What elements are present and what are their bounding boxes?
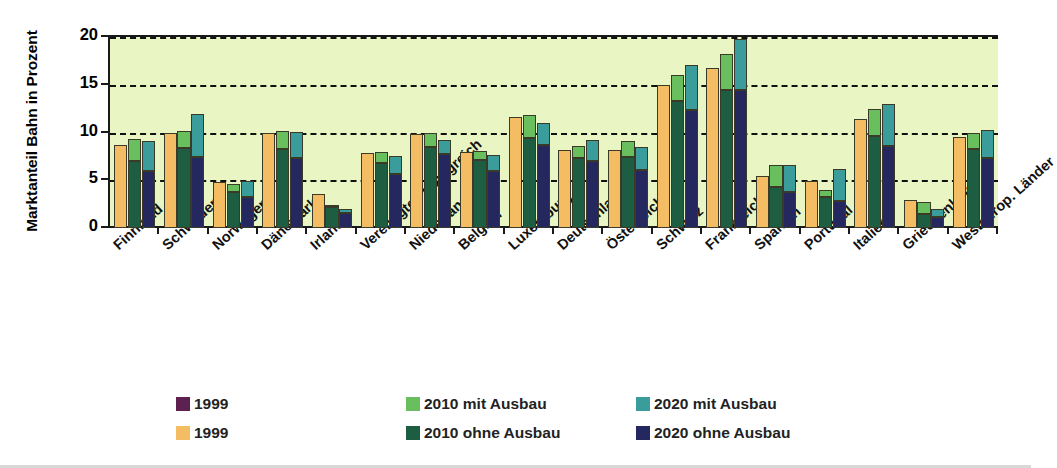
- legend-label: 1999: [194, 425, 228, 440]
- y-tick-label: 15: [56, 73, 98, 92]
- x-tick-mark: [848, 226, 850, 234]
- x-tick-mark: [404, 226, 406, 234]
- bar-2020-mit-ausbau: [241, 181, 254, 196]
- legend-item: 2010 mit Ausbau: [406, 396, 547, 411]
- bar-2020-ohne-ausbau: [537, 145, 550, 228]
- bar-2010-mit-ausbau: [128, 139, 141, 161]
- bar-2010-ohne-ausbau: [967, 149, 980, 228]
- bar-2020-ohne-ausbau: [981, 158, 994, 228]
- bar-2020-mit-ausbau: [734, 39, 747, 91]
- legend-item: 1999: [176, 425, 228, 440]
- x-tick-mark: [651, 226, 653, 234]
- x-tick-mark: [947, 226, 949, 234]
- bar-2010-ohne-ausbau: [868, 136, 881, 228]
- bar-2010-ohne-ausbau: [177, 148, 190, 228]
- bar-1999: [558, 150, 571, 228]
- bar-2010-ohne-ausbau: [375, 163, 388, 228]
- bar-2020-ohne-ausbau: [635, 170, 648, 228]
- bar-1999: [312, 194, 325, 228]
- x-tick-mark: [700, 226, 702, 234]
- legend-swatch: [406, 426, 420, 440]
- bar-2020-mit-ausbau: [635, 147, 648, 170]
- bar-1999: [361, 153, 374, 228]
- legend-item: 2020 mit Ausbau: [636, 396, 777, 411]
- bar-1999: [114, 145, 127, 228]
- bar-2010-mit-ausbau: [424, 133, 437, 147]
- legend-swatch: [636, 397, 650, 411]
- bar-2010-ohne-ausbau: [621, 157, 634, 228]
- bar-2010-ohne-ausbau: [671, 101, 684, 228]
- y-tick-mark: [101, 35, 108, 37]
- bar-2020-mit-ausbau: [191, 114, 204, 157]
- legend-swatch: [176, 397, 190, 411]
- bar-2010-mit-ausbau: [227, 184, 240, 192]
- bar-2020-ohne-ausbau: [389, 174, 402, 228]
- bar-2010-ohne-ausbau: [917, 214, 930, 228]
- bar-2020-ohne-ausbau: [142, 171, 155, 228]
- bar-2020-mit-ausbau: [537, 123, 550, 145]
- bar-2010-mit-ausbau: [967, 133, 980, 149]
- bar-2010-mit-ausbau: [523, 115, 536, 138]
- legend-row: 19992010 ohne Ausbau2020 ohne Ausbau: [176, 425, 976, 454]
- bar-1999: [262, 133, 275, 229]
- bar-2010-mit-ausbau: [720, 54, 733, 90]
- bar-2010-mit-ausbau: [375, 152, 388, 163]
- bar-2020-ohne-ausbau: [833, 201, 846, 228]
- bar-2020-mit-ausbau: [685, 65, 698, 110]
- bar-1999: [460, 152, 473, 228]
- x-tick-mark: [552, 226, 554, 234]
- y-tick-mark: [101, 226, 108, 228]
- x-tick-mark: [157, 226, 159, 234]
- bar-2020-mit-ausbau: [487, 155, 500, 170]
- bar-2010-mit-ausbau: [177, 131, 190, 148]
- bar-1999: [657, 85, 670, 228]
- y-tick-mark: [101, 178, 108, 180]
- bar-1999: [213, 182, 226, 228]
- y-axis-title: Marktanteil Bahn in Prozent: [23, 11, 41, 251]
- bar-2020-ohne-ausbau: [783, 192, 796, 228]
- bar-2020-ohne-ausbau: [685, 110, 698, 228]
- x-tick-mark: [355, 226, 357, 234]
- x-tick-mark: [996, 226, 998, 234]
- bar-2010-ohne-ausbau: [276, 149, 289, 228]
- x-tick-mark: [897, 226, 899, 234]
- bar-2010-mit-ausbau: [572, 146, 585, 158]
- bar-2020-ohne-ausbau: [438, 154, 451, 228]
- bar-2020-ohne-ausbau: [290, 158, 303, 228]
- bar-2010-mit-ausbau: [917, 202, 930, 213]
- bar-1999: [805, 181, 818, 228]
- bar-2010-ohne-ausbau: [424, 147, 437, 228]
- bar-1999: [608, 150, 621, 228]
- bar-2020-ohne-ausbau: [734, 90, 747, 228]
- bar-2010-ohne-ausbau: [572, 158, 585, 228]
- bar-2010-mit-ausbau: [769, 165, 782, 187]
- x-tick-mark: [799, 226, 801, 234]
- gridline: [110, 85, 998, 87]
- x-tick-mark: [601, 226, 603, 234]
- legend-label: 2020 mit Ausbau: [654, 396, 777, 411]
- legend-label: 2010 ohne Ausbau: [424, 425, 560, 440]
- bar-1999: [509, 117, 522, 228]
- bar-2020-ohne-ausbau: [241, 197, 254, 229]
- bar-2010-mit-ausbau: [473, 151, 486, 161]
- bar-2010-mit-ausbau: [276, 131, 289, 149]
- bar-1999: [854, 119, 867, 228]
- bar-2020-ohne-ausbau: [882, 146, 895, 228]
- bar-2020-mit-ausbau: [783, 165, 796, 192]
- legend-item: 1999: [176, 396, 228, 411]
- legend-swatch: [406, 397, 420, 411]
- x-tick-mark: [256, 226, 258, 234]
- y-tick-label: 5: [56, 168, 98, 187]
- legend-swatch: [636, 426, 650, 440]
- bar-2010-mit-ausbau: [671, 75, 684, 101]
- bar-2020-mit-ausbau: [142, 141, 155, 171]
- bar-2020-ohne-ausbau: [487, 171, 500, 228]
- y-tick-mark: [101, 83, 108, 85]
- bar-2010-ohne-ausbau: [473, 160, 486, 228]
- y-tick-label: 20: [56, 25, 98, 44]
- y-tick-label: 10: [56, 121, 98, 140]
- legend-row: 19992010 mit Ausbau2020 mit Ausbau: [176, 396, 976, 425]
- x-tick-mark: [207, 226, 209, 234]
- bar-2020-mit-ausbau: [833, 169, 846, 201]
